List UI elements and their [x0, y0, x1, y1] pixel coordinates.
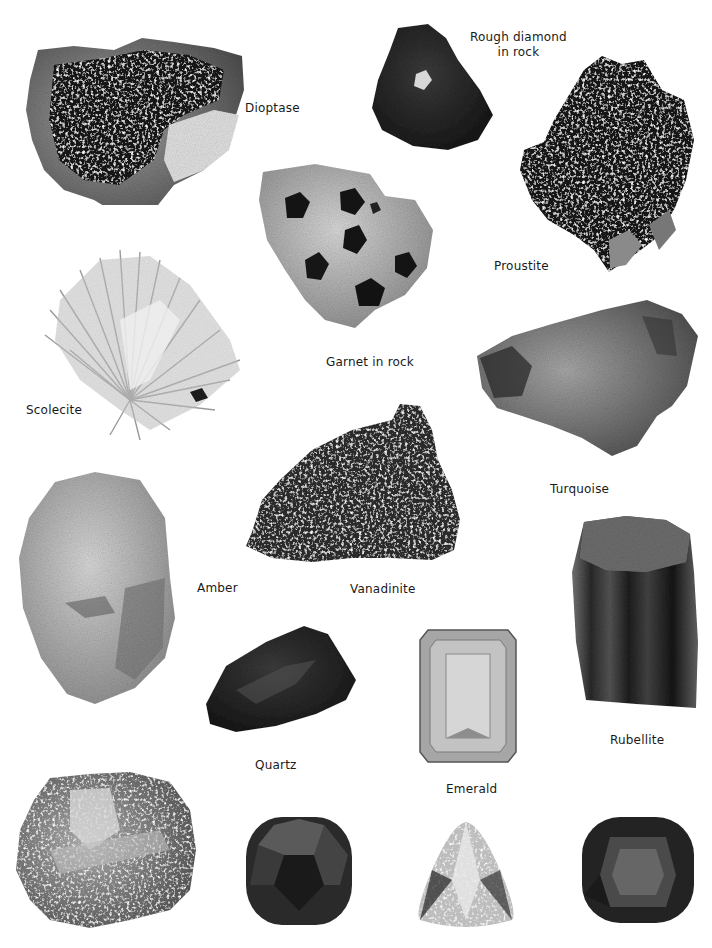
turquoise-specimen-image: [472, 296, 700, 461]
cushion-cut-gem-2-image: [580, 815, 696, 925]
label-garnet-in-rock: Garnet in rock: [326, 355, 414, 370]
rubellite-specimen-image: [566, 512, 702, 712]
label-vanadinite: Vanadinite: [350, 582, 416, 597]
label-amber: Amber: [197, 581, 238, 596]
label-rubellite: Rubellite: [610, 733, 664, 748]
vanadinite-specimen-image: [242, 400, 462, 565]
cushion-cut-gem-1-image: [244, 815, 354, 927]
dioptase-specimen-image: [14, 20, 244, 205]
label-emerald: Emerald: [446, 782, 497, 797]
proustite-specimen-image: [514, 50, 696, 275]
label-scolecite: Scolecite: [26, 403, 82, 418]
trillion-cut-gem-image: [412, 820, 520, 930]
amber-specimen-image: [15, 468, 175, 708]
quartz-specimen-image: [196, 620, 358, 732]
label-quartz: Quartz: [255, 758, 297, 773]
label-dioptase: Dioptase: [245, 101, 300, 116]
label-turquoise: Turquoise: [550, 482, 609, 497]
label-proustite: Proustite: [494, 259, 549, 274]
metallic-mineral-specimen-image: [10, 770, 198, 930]
emerald-gem-image: [418, 628, 518, 764]
garnet-in-rock-specimen-image: [255, 160, 435, 330]
